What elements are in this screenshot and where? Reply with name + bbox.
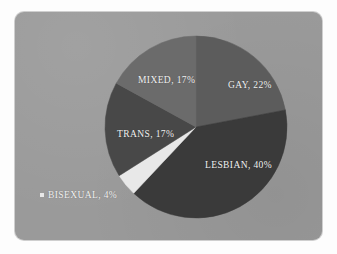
pie-label-bisexual: BISEXUAL, 4%	[40, 190, 117, 200]
pie-chart: GAY, 22%LESBIAN, 40%TRANS, 17%MIXED, 17%…	[15, 12, 322, 240]
pie-chart-svg	[15, 12, 322, 240]
page-background: GAY, 22%LESBIAN, 40%TRANS, 17%MIXED, 17%…	[0, 0, 337, 254]
pie-chart-card: GAY, 22%LESBIAN, 40%TRANS, 17%MIXED, 17%…	[15, 12, 322, 240]
pie-label-lesbian: LESBIAN, 40%	[205, 160, 272, 170]
square-marker-icon	[40, 193, 44, 197]
pie-slice-group	[105, 36, 287, 218]
pie-label-trans: TRANS, 17%	[117, 129, 174, 139]
pie-label-text: BISEXUAL, 4%	[48, 190, 117, 200]
pie-label-mixed: MIXED, 17%	[138, 75, 195, 85]
pie-label-gay: GAY, 22%	[228, 80, 272, 90]
